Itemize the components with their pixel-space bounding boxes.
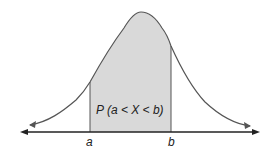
bound-b-label: b bbox=[168, 135, 175, 149]
diagram-graphic bbox=[0, 0, 273, 157]
normal-curve-diagram: P (a < X < b) a b bbox=[0, 0, 273, 157]
axis-right-arrow-icon bbox=[252, 129, 260, 135]
region-label: P (a < X < b) bbox=[96, 103, 164, 117]
bound-a-label: a bbox=[86, 135, 93, 149]
curve-right-arrow-icon bbox=[244, 122, 251, 129]
axis-left-arrow-icon bbox=[20, 129, 28, 135]
curve-left-arrow-icon bbox=[29, 121, 36, 128]
